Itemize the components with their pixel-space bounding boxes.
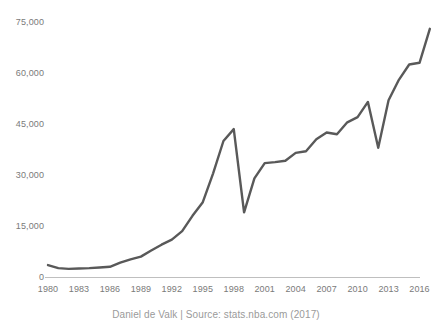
chart-caption: Daniel de Valk | Source: stats.nba.com (… [0, 309, 432, 320]
x-tick-label: 1995 [193, 284, 213, 294]
x-tick-label: 2004 [285, 284, 305, 294]
x-tick-label: 1998 [224, 284, 244, 294]
x-tick-label: 2001 [254, 284, 274, 294]
x-tick-label: 1989 [131, 284, 151, 294]
x-tick-label: 1992 [162, 284, 182, 294]
x-tick-label: 1986 [100, 284, 120, 294]
x-tick-label: 2016 [409, 284, 429, 294]
x-tick-label: 1983 [69, 284, 89, 294]
x-tick-label: 2010 [347, 284, 367, 294]
x-tick-label: 2013 [378, 284, 398, 294]
chart-container: 0 15,000 30,000 45,000 60,000 75,000 198… [0, 0, 432, 331]
x-tick-label: 1980 [38, 284, 58, 294]
x-axis-tick-labels: 1980198319861989199219951998200120042007… [0, 0, 432, 331]
x-tick-label: 2007 [316, 284, 336, 294]
